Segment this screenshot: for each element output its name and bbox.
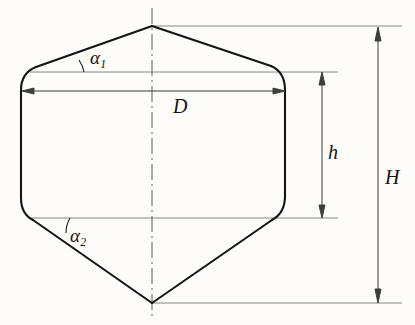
dimension-h <box>319 72 325 218</box>
label-diameter-D: D <box>173 96 187 116</box>
cone-upper-right-slope <box>152 26 271 66</box>
corner-bottom-right <box>272 196 285 220</box>
arrowhead-H-bottom <box>375 289 381 303</box>
cone-lower-right-slope <box>152 220 272 303</box>
figure-canvas: α1 α2 D h H <box>0 0 415 325</box>
angle-arc-alpha1 <box>79 60 84 72</box>
corner-top-left <box>21 67 36 90</box>
dimension-diagram-svg <box>0 0 415 325</box>
arrowhead-h-bottom <box>319 205 325 218</box>
arrowhead-D-right <box>273 88 285 94</box>
label-height-h: h <box>328 142 338 162</box>
label-alpha2-subscript: 2 <box>80 236 86 249</box>
dimension-H <box>375 27 381 303</box>
arrowhead-h-top <box>319 72 325 85</box>
label-alpha2: α2 <box>70 226 86 249</box>
extension-lines <box>28 26 402 303</box>
vessel-outline <box>21 26 285 303</box>
corner-top-right <box>271 66 285 90</box>
cone-lower-left-slope <box>33 220 152 303</box>
label-alpha1-subscript: 1 <box>100 58 106 71</box>
arrowhead-H-top <box>375 27 381 41</box>
label-alpha2-symbol: α <box>70 225 80 246</box>
dimension-D <box>22 88 285 94</box>
label-alpha1-symbol: α <box>90 47 100 68</box>
arrowhead-D-left <box>22 88 34 94</box>
label-alpha1: α1 <box>90 48 106 71</box>
label-overall-height-H: H <box>385 167 399 187</box>
angle-arcs <box>66 60 84 233</box>
corner-bottom-left <box>21 198 33 220</box>
